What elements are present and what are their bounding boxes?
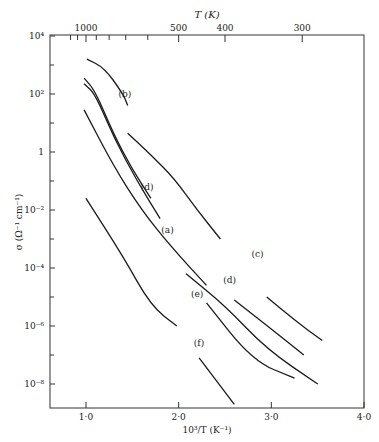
series-line-f-mid [207,303,295,378]
y-axis-label: σ (Ω⁻¹ cm⁻¹) [14,194,24,251]
x-axis-label: 10³/T (K⁻¹) [182,425,231,435]
chart-container: 10⁴10²110⁻²10⁻⁴10⁻⁶10⁻⁸1·02·03·04·010005… [0,0,379,442]
series-line-d-upper [84,78,151,198]
top-tick-label: 1000 [75,23,98,33]
x-tick-label: 1·0 [79,412,94,422]
x-tick-label: 3·0 [264,412,279,422]
x-tick-label: 2·0 [172,412,187,422]
series-line-c [267,297,323,341]
series-line-d [234,300,303,355]
y-tick-label: 10⁻⁸ [24,379,44,389]
curve-label: (d) [141,182,154,192]
y-tick-label: 1 [38,147,44,157]
series-line-f-upper [86,198,177,326]
curve-label: (e) [191,289,203,299]
top-tick-label: 400 [216,23,233,33]
curve-label: (a) [161,225,173,235]
top-axis-label: T (K) [194,9,219,20]
y-tick-label: 10² [29,89,44,99]
x-tick-label: 4·0 [357,412,372,422]
y-tick-label: 10⁻⁴ [24,263,44,273]
top-tick-label: 500 [170,23,187,33]
series-line-f [199,358,234,404]
curve-label: (b) [119,89,132,99]
curve-label: (c) [251,249,263,259]
y-tick-label: 10⁻⁶ [24,321,44,331]
curve-label: (d) [223,275,236,285]
top-tick-label: 300 [294,23,311,33]
conductivity-plot: 10⁴10²110⁻²10⁻⁴10⁻⁶10⁻⁸1·02·03·04·010005… [0,0,379,442]
y-tick-label: 10⁴ [29,31,44,41]
curve-label: (f) [194,338,204,348]
y-tick-label: 10⁻² [24,205,44,215]
